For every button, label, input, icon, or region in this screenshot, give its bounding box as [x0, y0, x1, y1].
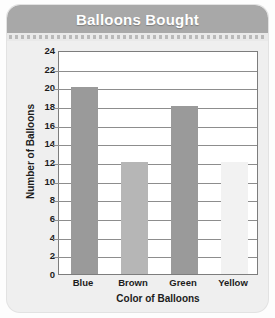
plot-frame: [58, 51, 258, 275]
x-axis-label-blue: Blue: [73, 277, 94, 288]
y-axis-tick-labels: 242220181614121086420: [31, 41, 55, 281]
chart-area: Number of Balloons 242220181614121086420…: [7, 41, 268, 312]
bar-green: [171, 106, 198, 274]
chart-title-bar: Balloons Bought: [7, 5, 268, 33]
y-axis-tick-16: 16: [44, 121, 55, 131]
y-axis-tick-10: 10: [44, 177, 55, 187]
y-axis-tick-6: 6: [50, 214, 55, 224]
chart-title: Balloons Bought: [76, 11, 199, 28]
x-axis-title: Color of Balloons: [58, 293, 258, 304]
bar-blue: [71, 87, 98, 274]
y-axis-tick-8: 8: [50, 196, 55, 206]
bar-series: [59, 52, 257, 274]
bar-brown: [121, 162, 148, 274]
perforated-divider: [7, 33, 268, 41]
y-axis-tick-4: 4: [50, 233, 55, 243]
chart-card: Balloons Bought Number of Balloons 24222…: [7, 5, 268, 312]
y-axis-tick-22: 22: [44, 65, 55, 75]
x-axis-label-yellow: Yellow: [218, 277, 248, 288]
chart-page: Balloons Bought Number of Balloons 24222…: [0, 0, 275, 318]
y-axis-tick-0: 0: [50, 270, 55, 280]
x-axis-tick-labels: BlueBrownGreenYellow: [58, 277, 258, 293]
x-axis-label-brown: Brown: [118, 277, 148, 288]
y-axis-tick-20: 20: [44, 84, 55, 94]
y-axis-tick-2: 2: [50, 252, 55, 262]
y-axis-tick-18: 18: [44, 102, 55, 112]
y-axis-tick-24: 24: [44, 46, 55, 56]
y-axis-tick-14: 14: [44, 140, 55, 150]
y-axis-tick-12: 12: [44, 158, 55, 168]
x-axis-label-green: Green: [169, 277, 196, 288]
bar-yellow: [221, 162, 248, 274]
